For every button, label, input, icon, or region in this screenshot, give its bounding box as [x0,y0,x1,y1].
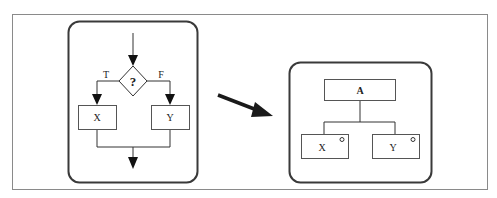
selection-circle-icon [411,138,415,142]
child-box-y-label: Y [389,142,396,153]
process-box-x-label: X [93,112,101,123]
flowchart-panel: ? T F X Y [69,22,198,183]
selection-circle-icon [340,138,344,142]
child-box-x-label: X [318,142,326,153]
structure-chart-panel: A X Y [290,63,432,183]
decision-label: ? [130,74,137,89]
false-label: F [158,69,164,80]
process-box-y-label: Y [166,112,173,123]
true-label: T [103,69,109,80]
transform-arrow-icon [218,95,273,117]
root-box-a-label: A [356,85,364,96]
diagram-canvas: ? T F X Y A X Y [0,0,497,198]
